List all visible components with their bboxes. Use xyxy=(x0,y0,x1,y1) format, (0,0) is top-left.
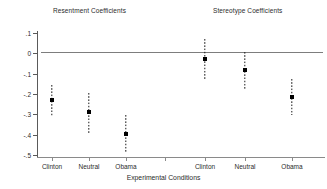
coefficient-point-marker xyxy=(290,95,294,99)
y-tick-mark xyxy=(33,94,37,95)
coefficient-plot-figure: Resentment Coefficients Stereotype Coeff… xyxy=(0,0,327,189)
y-tick-label: -.4 xyxy=(23,131,31,138)
y-tick-label: -.2 xyxy=(23,91,31,98)
y-tick-mark xyxy=(33,135,37,136)
coefficient-point-marker xyxy=(124,132,128,136)
x-axis-label: Experimental Conditions xyxy=(0,174,327,181)
y-tick-mark xyxy=(33,53,37,54)
y-tick-mark xyxy=(33,74,37,75)
panel-title-resentment: Resentment Coefficients xyxy=(53,7,126,14)
y-tick-label: -.3 xyxy=(23,111,31,118)
x-tick-mark-divider xyxy=(165,157,166,161)
x-tick-label: Neutral xyxy=(79,163,100,170)
x-tick-label: Clinton xyxy=(42,163,62,170)
y-tick-label: -.5 xyxy=(23,152,31,159)
x-tick-label: Obama xyxy=(115,163,136,170)
y-tick-label: -.1 xyxy=(23,70,31,77)
x-tick-mark xyxy=(89,157,90,161)
zero-reference-line xyxy=(41,52,323,53)
x-tick-mark xyxy=(292,157,293,161)
x-tick-mark xyxy=(126,157,127,161)
y-axis-line xyxy=(37,31,38,157)
y-tick-mark xyxy=(33,33,37,34)
coefficient-point-marker xyxy=(87,110,91,114)
x-tick-label: Clinton xyxy=(195,163,215,170)
x-axis-line xyxy=(37,157,325,158)
coefficient-point-marker xyxy=(203,57,207,61)
coefficient-point-marker xyxy=(50,98,54,102)
x-tick-label: Obama xyxy=(281,163,302,170)
coefficient-point-marker xyxy=(243,68,247,72)
x-tick-mark xyxy=(52,157,53,161)
y-tick-mark xyxy=(33,114,37,115)
x-tick-label: Neutral xyxy=(235,163,256,170)
x-tick-mark xyxy=(245,157,246,161)
y-tick-label: 0 xyxy=(27,50,31,57)
y-tick-label: .1 xyxy=(26,30,31,37)
y-tick-mark xyxy=(33,155,37,156)
x-tick-mark xyxy=(205,157,206,161)
panel-title-stereotype: Stereotype Coefficients xyxy=(213,7,282,14)
